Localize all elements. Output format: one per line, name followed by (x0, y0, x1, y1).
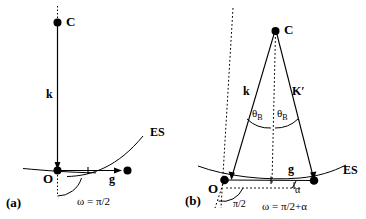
panel-b-theta-b-right-label: θB (277, 108, 288, 122)
panel-b-k-label: k (243, 85, 250, 97)
panel-a-ewald-sphere-label: ES (150, 126, 165, 138)
panel-a-point-o-label: O (43, 172, 53, 185)
panel-b-omega-angle-label: ω = π/2+α (262, 201, 307, 212)
panel-b-g-vector-line (225, 180, 315, 181)
panel-a-omega-angle-arc (58, 178, 82, 196)
panel-b-point-c-label: C (284, 23, 293, 36)
figure-drawing (0, 0, 366, 219)
panel-a-tag: (a) (6, 196, 21, 209)
panel-b-ewald-sphere-label: ES (343, 164, 358, 176)
panel-b-tag: (b) (185, 194, 201, 207)
theta-right-subscript: B (282, 113, 287, 122)
theta-left-subscript: B (257, 113, 262, 122)
panel-b-point-o-label: O (208, 182, 218, 195)
panel-b-k-prime-line (277, 33, 314, 179)
panel-b-alpha-angle-label: α (295, 185, 300, 195)
panel-a-point-c-label: C (66, 15, 75, 28)
panel-b-point-c-dot (272, 27, 280, 35)
panel-b-bisector-dotted-line (272, 33, 276, 183)
panel-a-g-arrowhead (114, 168, 122, 174)
panel-b-drawing (198, 8, 346, 208)
panel-b-k-line (232, 33, 275, 179)
panel-a-omega-angle-label: ω = π/2 (77, 196, 110, 207)
panel-a-point-c-dot (54, 19, 62, 27)
panel-b-surface-curve (198, 165, 346, 179)
panel-b-theta-b-left-label: θB (252, 108, 263, 122)
panel-b-half-pi-angle-label: π/2 (233, 199, 246, 209)
panel-a-drawing (23, 6, 143, 196)
panel-b-g-label: g (288, 163, 294, 175)
panel-a-g-label: g (109, 173, 115, 185)
panel-b-k-prime-label: K′ (292, 85, 305, 97)
panel-a-k-label: k (46, 88, 53, 100)
figure-container: (a) C O k g ES ω = π/2 (b) C O k K′ g ES… (0, 0, 366, 219)
panel-b-k-arrowhead (229, 172, 235, 181)
panel-a-reciprocal-point-dot (124, 167, 132, 175)
